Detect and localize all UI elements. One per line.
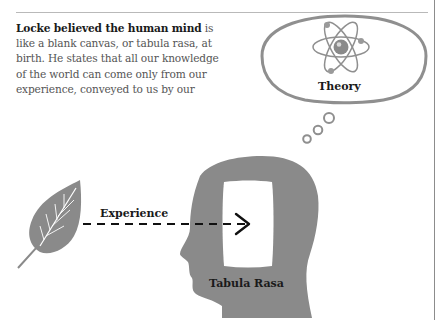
tabula-rasa-label: Tabula Rasa <box>209 277 284 290</box>
leaf-icon <box>18 180 81 268</box>
experience-label: Experience <box>100 207 168 220</box>
head-profile-icon <box>180 156 319 318</box>
theory-label: Theory <box>318 80 361 93</box>
atom-icon <box>313 18 369 76</box>
